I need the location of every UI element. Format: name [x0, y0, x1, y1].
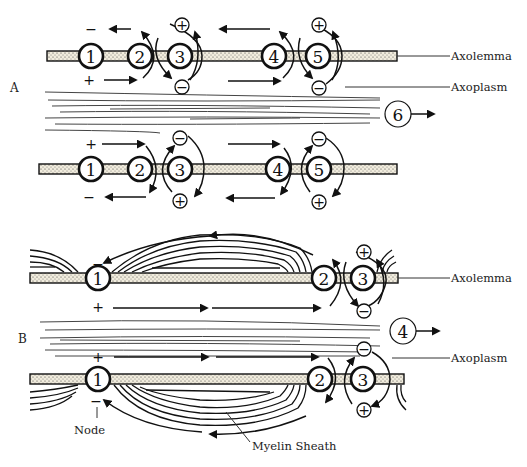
plus-ion: +	[358, 402, 370, 418]
plus-ion: +	[313, 194, 325, 210]
node-label: 3	[175, 160, 186, 180]
section-a: A 1 2 3 4	[9, 17, 512, 210]
plus-sign: +	[85, 136, 97, 152]
myelin-sheath-label: Myelin Sheath	[252, 439, 337, 453]
node-label: 4	[273, 160, 284, 180]
minus-sign: −	[90, 393, 102, 409]
section-b-upper-myelin	[30, 235, 396, 272]
minus-sign: −	[85, 21, 97, 37]
minus-sign: −	[92, 256, 104, 272]
node-label: 5	[313, 47, 324, 67]
section-a-label: A	[9, 81, 19, 95]
section-b: B	[18, 234, 512, 453]
node-label: 3	[358, 269, 369, 289]
minus-sign: −	[83, 189, 95, 205]
minus-ion: −	[358, 341, 370, 357]
node-label: 1	[93, 370, 104, 390]
plus-ion: +	[176, 17, 188, 33]
section-a-axoplasm-fibers	[45, 92, 380, 133]
node-label: 5	[314, 160, 325, 180]
left-arrow-icon	[104, 236, 210, 263]
plus-ion: +	[313, 17, 325, 33]
node-label-text: Node	[74, 423, 105, 437]
node-label: 2	[135, 47, 146, 67]
section-b-labels: Axolemma Axoplasm Node Myelin Sheath	[74, 271, 512, 453]
node-label: 1	[86, 47, 97, 67]
minus-ion: −	[174, 130, 186, 146]
direction-number: 4	[398, 322, 409, 342]
plus-sign: +	[83, 72, 95, 88]
axolemma-label: Axolemma	[450, 271, 512, 285]
node-label: 1	[86, 160, 97, 180]
node-label: 3	[175, 47, 186, 67]
section-b-lower-myelin	[30, 385, 406, 425]
plus-sign: +	[92, 349, 104, 365]
minus-ion: −	[358, 303, 370, 319]
axoplasm-label: Axoplasm	[450, 351, 508, 365]
node-label: 2	[135, 160, 146, 180]
section-b-direction-marker: 4	[390, 318, 439, 344]
node-label: 1	[93, 269, 104, 289]
node-label: 4	[269, 47, 280, 67]
plus-ion: +	[358, 244, 370, 260]
plus-ion: +	[174, 193, 186, 209]
nerve-conduction-diagram: A 1 2 3 4	[0, 0, 527, 467]
plus-sign: +	[92, 299, 104, 315]
node-label: 2	[319, 269, 330, 289]
section-b-axoplasm-fibers	[40, 321, 380, 356]
section-a-direction-marker: 6	[385, 101, 434, 127]
direction-number: 6	[393, 105, 404, 125]
minus-ion: −	[176, 79, 188, 95]
node-label: 2	[315, 370, 326, 390]
section-b-label: B	[18, 332, 27, 346]
node-label: 3	[358, 370, 369, 390]
axoplasm-label: Axoplasm	[450, 80, 508, 94]
axolemma-label: Axolemma	[450, 49, 512, 63]
minus-ion: −	[313, 131, 325, 147]
minus-ion: −	[313, 80, 325, 96]
